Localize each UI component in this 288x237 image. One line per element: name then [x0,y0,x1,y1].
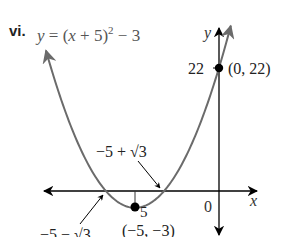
equation-mid: + 5) [76,26,108,45]
origin-label: 0 [204,198,212,215]
problem-label: vi. [9,22,26,39]
left-root-label: −5 − √3 [40,226,91,237]
equation-lhs: y [35,26,45,45]
parabola-curve [46,26,231,208]
parabola-graph: vi. y = (x + 5)2 − 3 y x 0 22 (0, 22) 5 … [0,0,288,237]
equation-eq: = ( [45,26,69,45]
x-axis-label: x [249,192,257,209]
y-intercept-label: (0, 22) [228,60,271,78]
right-root-arrow [138,161,160,188]
y-intercept-point [215,64,223,72]
right-root-label: −5 + √3 [96,143,147,160]
y-tick-label-22: 22 [188,60,204,77]
vertex-point [131,203,140,212]
equation-tail: − 3 [114,26,141,45]
vertex-label: (−5, −3) [122,222,175,237]
y-axis-label: y [202,24,212,42]
vertex-tick-label: 5 [140,204,148,220]
left-root-arrow [80,195,103,224]
equation-label: y = (x + 5)2 − 3 [35,24,140,45]
